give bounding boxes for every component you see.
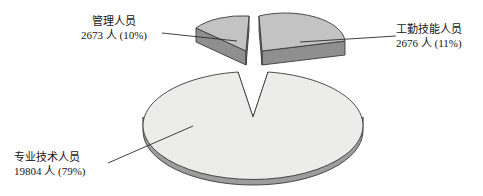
- label-management-value: 2673 人 (10%): [62, 28, 166, 42]
- label-professional: 专业技术人员 19804 人 (79%): [14, 150, 126, 178]
- label-professional-value: 19804 人 (79%): [14, 164, 126, 178]
- label-worker-name: 工勤技能人员: [396, 22, 483, 36]
- pie-chart: 管理人员 2673 人 (10%) 工勤技能人员 2676 人 (11%) 专业…: [0, 0, 483, 196]
- label-worker-value: 2676 人 (11%): [396, 36, 483, 50]
- label-worker: 工勤技能人员 2676 人 (11%): [396, 22, 483, 50]
- label-management-name: 管理人员: [62, 14, 166, 28]
- label-management: 管理人员 2673 人 (10%): [62, 14, 166, 42]
- slice-professional-top: [143, 72, 363, 179]
- label-professional-name: 专业技术人员: [14, 150, 126, 164]
